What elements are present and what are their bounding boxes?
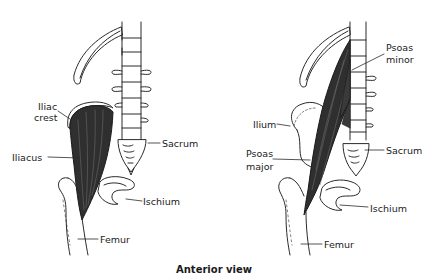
label-sacrum-left: Sacrum xyxy=(162,138,198,149)
label-ischium-left: Ischium xyxy=(143,196,180,207)
femur-icon xyxy=(279,178,310,255)
label-iliacus: Iliacus xyxy=(12,152,42,163)
left-panel-drawing xyxy=(48,22,160,255)
label-femur-left: Femur xyxy=(100,234,130,245)
label-iliac-crest-line1: Iliac xyxy=(38,101,57,112)
figure-caption: Anterior view xyxy=(176,264,252,275)
right-panel-drawing xyxy=(273,22,384,255)
label-femur-right: Femur xyxy=(324,239,354,250)
lumbar-spine-icon xyxy=(112,22,151,140)
anatomy-figure: Iliac crest Iliacus Sacrum Ischium Femur… xyxy=(0,0,438,280)
sacrum-icon xyxy=(118,140,146,175)
label-sacrum-right: Sacrum xyxy=(386,145,422,156)
anatomy-illustration xyxy=(0,0,438,280)
label-psoas-minor-line2: minor xyxy=(386,54,414,65)
rib-icon xyxy=(74,27,122,84)
label-psoas-major-line2: major xyxy=(246,161,273,172)
label-ilium: Ilium xyxy=(253,119,276,130)
lumbar-spine-icon xyxy=(350,22,376,140)
iliacus-muscle-icon xyxy=(70,105,113,220)
label-psoas-minor-line1: Psoas xyxy=(386,42,413,53)
sacrum-icon xyxy=(343,144,369,176)
label-ischium-right: Ischium xyxy=(370,203,407,214)
ischium-icon xyxy=(98,177,134,205)
label-iliac-crest-line2: crest xyxy=(34,112,57,123)
label-psoas-major-line1: Psoas xyxy=(246,148,273,159)
